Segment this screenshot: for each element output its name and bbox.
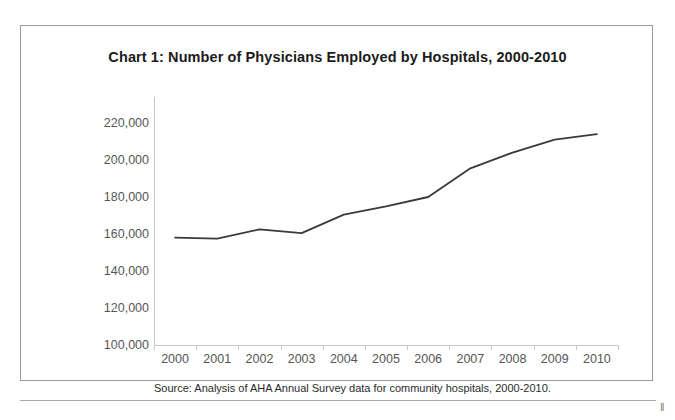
x-tick-mark [449, 345, 450, 350]
y-tick-mark [114, 234, 119, 235]
x-tick-mark [576, 345, 577, 350]
figure-frame: Chart 1: Number of Physicians Employed b… [20, 25, 653, 381]
y-tick-mark [114, 271, 119, 272]
page-divider-rule [20, 400, 656, 401]
series-line-physicians [175, 134, 597, 239]
y-tick-label: 140,000 [69, 264, 149, 278]
y-tick-mark [114, 123, 119, 124]
y-tick-mark [114, 160, 119, 161]
y-tick-label: 200,000 [69, 153, 149, 167]
y-tick-label: 120,000 [69, 301, 149, 315]
x-tick-mark [534, 345, 535, 350]
chart-plot [21, 26, 654, 382]
x-tick-mark [407, 345, 408, 350]
x-tick-mark [618, 345, 619, 350]
x-tick-label-2010: 2010 [567, 352, 627, 366]
page-canvas: Chart 1: Number of Physicians Employed b… [0, 0, 675, 420]
x-axis-line [154, 345, 618, 346]
x-tick-mark [281, 345, 282, 350]
x-tick-mark [491, 345, 492, 350]
x-tick-mark [154, 345, 155, 350]
y-tick-label: 220,000 [69, 116, 149, 130]
y-axis-line [154, 97, 155, 346]
y-tick-mark [114, 197, 119, 198]
y-tick-mark [114, 308, 119, 309]
x-tick-mark [323, 345, 324, 350]
y-tick-label: 160,000 [69, 227, 149, 241]
x-tick-mark [238, 345, 239, 350]
y-tick-mark [114, 345, 119, 346]
x-tick-mark [365, 345, 366, 350]
page-edge-mark: ‖ [660, 403, 667, 412]
x-tick-mark [196, 345, 197, 350]
y-tick-label: 180,000 [69, 190, 149, 204]
source-note: Source: Analysis of AHA Annual Survey da… [154, 382, 551, 394]
y-tick-label: 100,000 [69, 338, 149, 352]
chart-title: Chart 1: Number of Physicians Employed b… [21, 49, 654, 65]
